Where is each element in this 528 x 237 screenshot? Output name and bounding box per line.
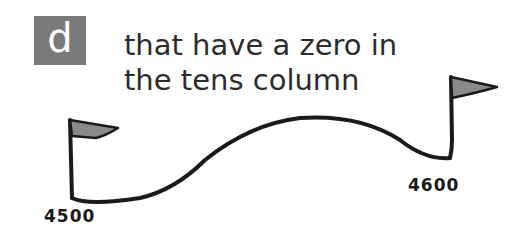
number-line-path [0,0,528,237]
number-line-curve [72,117,450,202]
end-flag-icon [451,77,497,98]
end-label: 4600 [408,175,459,195]
start-flag-icon [70,120,118,138]
start-label: 4500 [44,206,95,226]
